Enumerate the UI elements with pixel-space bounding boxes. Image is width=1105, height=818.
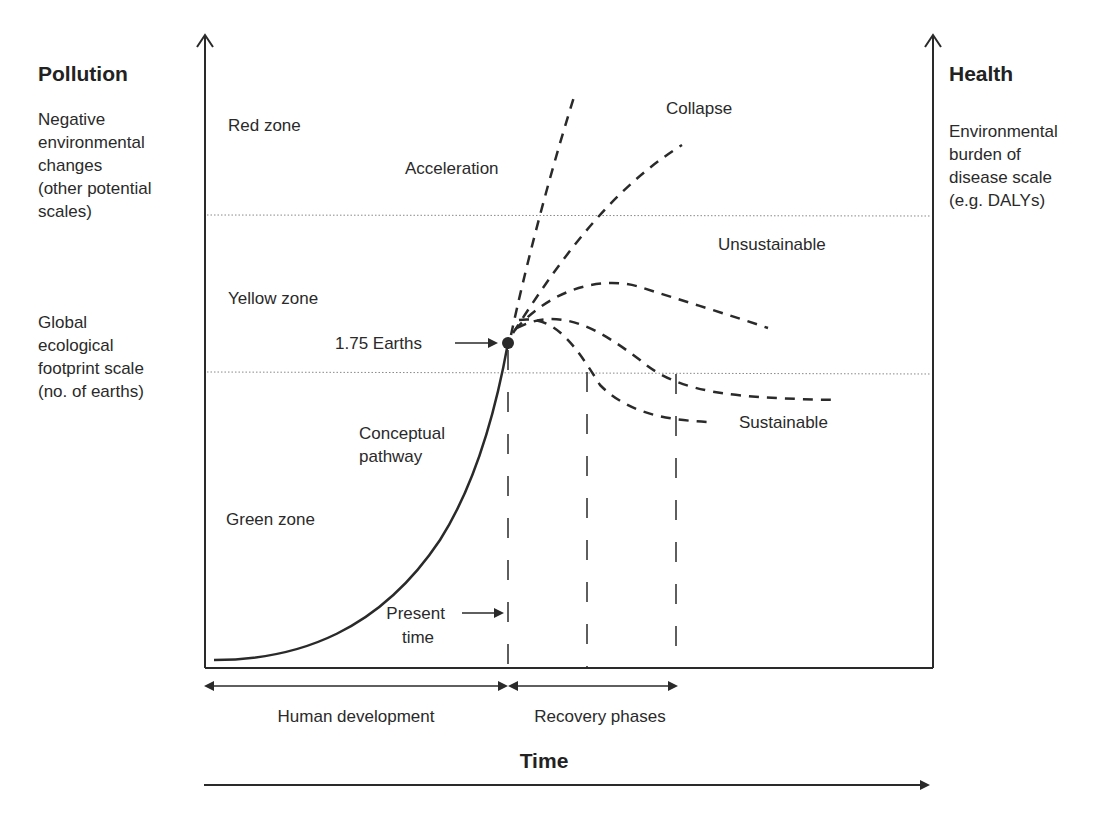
unsustainable-label: Unsustainable [718, 235, 826, 254]
yellow-zone-label: Yellow zone [228, 289, 318, 308]
sustainable-lower-curve [519, 319, 708, 422]
earths-label: 1.75 Earths [335, 334, 422, 353]
red-zone-label: Red zone [228, 116, 301, 135]
acceleration-curve [511, 97, 574, 335]
left-axis [197, 35, 213, 668]
unsustainable-curve [515, 283, 768, 330]
time-axis-label: Time [520, 749, 569, 772]
left-axis-upper-scale: Negative environmental changes (other po… [38, 110, 156, 221]
collapse-curve [513, 145, 682, 333]
sustainable-label: Sustainable [739, 413, 828, 432]
sustainable-upper-curve [517, 319, 838, 400]
human-development-label: Human development [278, 707, 435, 726]
left-axis-lower-scale: Global ecological footprint scale (no. o… [38, 313, 149, 401]
conceptual-pathway-label: Conceptual pathway [359, 424, 450, 466]
acceleration-label: Acceleration [405, 159, 499, 178]
phase-markers [508, 350, 676, 668]
yellow-green-threshold [207, 372, 931, 374]
collapse-label: Collapse [666, 99, 732, 118]
recovery-phases-label: Recovery phases [534, 707, 665, 726]
right-axis-title: Health [949, 62, 1013, 85]
present-time-label: Present time [386, 604, 449, 647]
red-yellow-threshold [207, 215, 931, 216]
left-axis-title: Pollution [38, 62, 128, 85]
present-point-marker [502, 337, 514, 349]
right-axis-scale: Environmental burden of disease scale (e… [949, 122, 1062, 210]
right-axis [925, 35, 941, 668]
diagram-canvas: Pollution Negative environmental changes… [0, 0, 1105, 818]
green-zone-label: Green zone [226, 510, 315, 529]
